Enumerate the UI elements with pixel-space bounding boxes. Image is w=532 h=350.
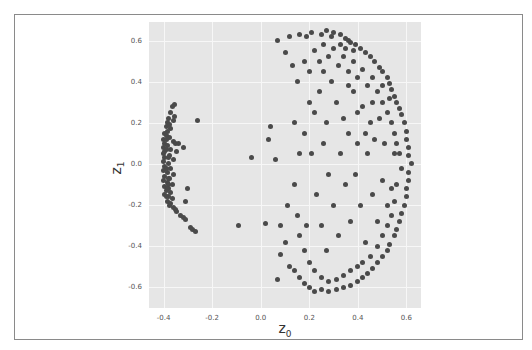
data-point (166, 176, 171, 181)
data-point (392, 94, 397, 99)
data-point (375, 260, 380, 265)
data-point (365, 83, 370, 88)
data-point (360, 67, 365, 72)
data-point (355, 279, 360, 284)
data-point (397, 219, 402, 224)
data-point (402, 120, 407, 125)
data-point (168, 147, 173, 152)
data-point (351, 59, 356, 64)
data-point (348, 268, 353, 273)
data-point (170, 104, 175, 109)
x-tick-label: 0.6 (401, 314, 412, 322)
data-point (292, 120, 297, 125)
data-point (348, 219, 353, 224)
data-point (372, 137, 377, 142)
x-tick-label: -0.4 (157, 314, 171, 322)
data-point (394, 182, 399, 187)
data-point (285, 203, 290, 208)
data-point (193, 229, 198, 234)
data-point (370, 75, 375, 80)
data-point (385, 75, 390, 80)
data-point (312, 289, 317, 294)
data-point (324, 248, 329, 253)
data-point (292, 182, 297, 187)
data-point (185, 186, 190, 191)
y-gridline (149, 287, 421, 288)
data-point (236, 223, 241, 228)
data-point (389, 120, 394, 125)
data-point (317, 59, 322, 64)
data-point (389, 87, 394, 92)
data-point (292, 268, 297, 273)
data-point (343, 182, 348, 187)
data-point (406, 145, 411, 150)
data-point (368, 120, 373, 125)
data-point (365, 151, 370, 156)
data-point (278, 223, 283, 228)
x-gridline (406, 22, 407, 308)
data-point (336, 233, 341, 238)
y-tick-label: 0.4 (120, 78, 142, 86)
data-point (164, 137, 169, 142)
data-point (319, 287, 324, 292)
data-point (380, 233, 385, 238)
data-point (338, 151, 343, 156)
data-point (392, 233, 397, 238)
data-point (164, 194, 169, 199)
data-point (358, 46, 363, 51)
data-point (297, 151, 302, 156)
data-point (341, 273, 346, 278)
data-point (171, 172, 176, 177)
data-point (392, 199, 397, 204)
data-point (165, 129, 170, 134)
data-point (382, 141, 387, 146)
data-point (307, 285, 312, 290)
data-point (334, 100, 339, 105)
data-point (341, 116, 346, 121)
data-point (319, 223, 324, 228)
data-point (402, 203, 407, 208)
data-point (331, 46, 336, 51)
data-point (171, 157, 176, 162)
data-point (302, 59, 307, 64)
data-point (385, 248, 390, 253)
y-gridline (149, 123, 421, 124)
data-point (397, 151, 402, 156)
data-point (297, 32, 302, 37)
x-tick-label: 0.2 (304, 314, 315, 322)
data-point (326, 289, 331, 294)
x-gridline (261, 22, 262, 308)
data-point (375, 244, 380, 249)
data-point (343, 46, 348, 51)
data-point (399, 166, 404, 171)
data-point (334, 287, 339, 292)
data-point (409, 161, 414, 166)
data-point (324, 28, 329, 33)
data-point (380, 178, 385, 183)
data-point (297, 275, 302, 280)
data-point (363, 50, 368, 55)
data-point (283, 240, 288, 245)
data-point (273, 157, 278, 162)
data-point (295, 213, 300, 218)
data-point (372, 59, 377, 64)
data-point (380, 254, 385, 259)
data-point (368, 254, 373, 259)
data-point (324, 120, 329, 125)
data-point (164, 166, 169, 171)
data-point (319, 275, 324, 280)
data-point (268, 124, 273, 129)
data-point (380, 100, 385, 105)
x-gridline (309, 22, 310, 308)
data-point (355, 141, 360, 146)
data-point (394, 227, 399, 232)
data-point (309, 30, 314, 35)
data-point (326, 172, 331, 177)
data-point (370, 266, 375, 271)
data-point (329, 79, 334, 84)
data-point (355, 75, 360, 80)
data-point (317, 89, 322, 94)
data-point (375, 219, 380, 224)
y-tick-label: 0.2 (120, 119, 142, 127)
data-point (278, 252, 283, 257)
